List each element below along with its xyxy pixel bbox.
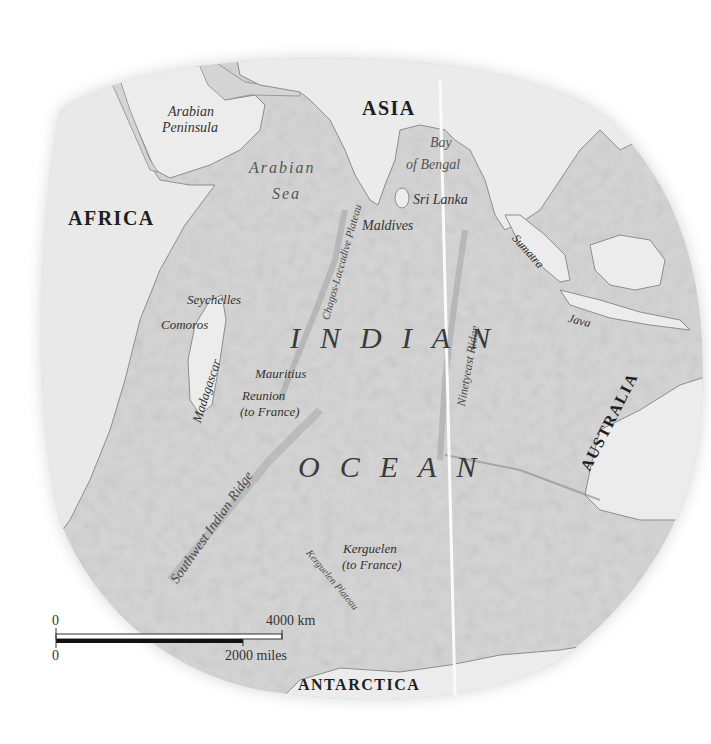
label-arabian-sea-2: Sea <box>272 186 301 202</box>
label-reunion-2: (to France) <box>240 405 300 418</box>
label-asia: ASIA <box>362 98 416 118</box>
label-africa: AFRICA <box>68 208 155 228</box>
scale-km-zero: 0 <box>52 614 59 628</box>
scale-km-max: 4000 km <box>266 614 315 628</box>
label-arabian-peninsula-1: Arabian <box>168 105 214 119</box>
label-maldives: Maldives <box>362 219 413 233</box>
relief-map <box>0 0 711 744</box>
label-bay-of-bengal-1: Bay <box>430 136 452 150</box>
label-ocean: OCEAN <box>298 452 496 482</box>
label-arabian-sea-1: Arabian <box>249 160 315 176</box>
label-kerguelen-1: Kerguelen <box>343 542 397 555</box>
label-sri-lanka: Sri Lanka <box>413 193 468 207</box>
scale-mi-zero: 0 <box>52 649 59 663</box>
label-comoros: Comoros <box>161 318 208 331</box>
label-mauritius: Mauritius <box>255 367 306 380</box>
sri-lanka-island <box>395 188 409 208</box>
label-antarctica: ANTARCTICA <box>298 677 420 693</box>
label-arabian-peninsula-2: Peninsula <box>162 121 218 135</box>
scale-mi-max: 2000 miles <box>225 649 287 663</box>
label-kerguelen-2: (to France) <box>342 558 402 571</box>
label-bay-of-bengal-2: of Bengal <box>406 158 460 172</box>
label-reunion-1: Reunion <box>242 389 285 402</box>
label-seychelles: Seychelles <box>187 293 241 306</box>
